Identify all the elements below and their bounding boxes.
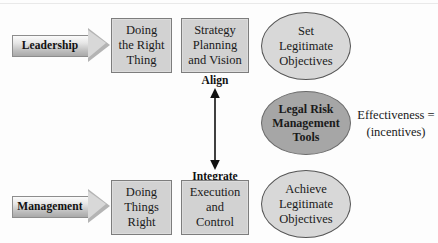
set-legitimate-objectives-ellipse: Set Legitimate Objectives: [261, 12, 351, 80]
achieve-legitimate-objectives-ellipse: Achieve Legitimate Objectives: [261, 170, 351, 238]
diagram-canvas: Leadership Doing the Right Thing Strateg…: [0, 0, 438, 243]
management-box-doing-things-right: Doing Things Right: [111, 180, 172, 235]
management-box-2-label: Execution and Control: [190, 185, 241, 230]
legal-risk-management-tools-ellipse: Legal Risk Management Tools: [261, 91, 351, 155]
align-integrate-double-arrow: [205, 88, 225, 170]
effectiveness-note-line-1: Effectiveness =: [356, 107, 436, 124]
leadership-box-doing-right-thing: Doing the Right Thing: [111, 18, 172, 73]
management-arrow: Management: [12, 189, 110, 223]
legal-risk-management-tools-label: Legal Risk Management Tools: [272, 102, 339, 144]
set-legitimate-objectives-label: Set Legitimate Objectives: [279, 24, 333, 69]
management-box-1-label: Doing Things Right: [124, 185, 159, 230]
achieve-legitimate-objectives-label: Achieve Legitimate Objectives: [279, 182, 333, 227]
management-box-execution-and-control: Execution and Control: [181, 180, 249, 235]
leadership-arrow-head-highlight: [88, 30, 106, 58]
leadership-box-2-label: Strategy Planning and Vision: [188, 23, 242, 68]
leadership-box-strategy-planning-vision: Strategy Planning and Vision: [181, 18, 249, 73]
leadership-box-1-label: Doing the Right Thing: [118, 23, 164, 68]
leadership-arrow-label: Leadership: [12, 35, 88, 55]
management-arrow-head-highlight: [88, 191, 106, 219]
align-label: Align: [186, 74, 244, 86]
effectiveness-note: Effectiveness = (incentives): [356, 107, 436, 141]
top-divider-line: [0, 3, 438, 4]
management-arrow-label: Management: [12, 196, 88, 216]
effectiveness-note-line-2: (incentives): [356, 124, 436, 141]
leadership-arrow: Leadership: [12, 28, 110, 62]
